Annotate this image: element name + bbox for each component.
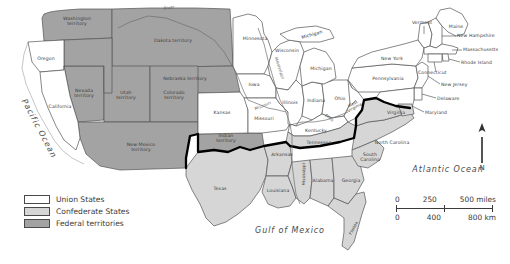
shape-new-mexico-territory: [78, 122, 198, 170]
leader-maryland: [412, 106, 424, 112]
scale-miles-500: 500 miles: [460, 195, 496, 204]
compass-stem: [481, 137, 482, 163]
shape-kansas: [198, 92, 248, 134]
scale-km-800: 800 km: [468, 213, 496, 222]
compass-north-label: N: [474, 164, 490, 172]
shape-washington-territory: [42, 9, 112, 41]
scale-tick-start: [396, 205, 397, 212]
leader-connecticut: [434, 62, 436, 72]
scale-miles-250: 250: [423, 195, 437, 204]
shape-michigan-upper: [280, 26, 334, 42]
shape-dakota-territory: [112, 8, 233, 68]
scale-line: [396, 205, 496, 212]
leader-new-jersey: [428, 76, 440, 84]
scale-miles-labels: 0 250 500 miles: [396, 195, 496, 204]
leader-delaware: [422, 94, 436, 98]
shape-oregon: [28, 40, 64, 72]
legend-label-federal: Federal territories: [56, 219, 124, 228]
shape-delaware: [414, 88, 422, 100]
shape-new-york: [352, 40, 424, 68]
scale-miles-0: 0: [395, 195, 400, 204]
compass-rose: N: [474, 118, 490, 172]
legend-swatch-confederate: [24, 207, 50, 216]
shape-michigan-lower: [300, 48, 336, 86]
legend-item-federal: Federal territories: [24, 217, 130, 229]
shape-pennsylvania: [348, 64, 418, 92]
legend-item-union: Union States: [24, 193, 130, 205]
shape-arkansas: [264, 142, 292, 176]
legend-label-confederate: Confederate States: [56, 207, 130, 216]
leader-rhode-island: [449, 59, 460, 62]
shape-indiana: [302, 82, 324, 120]
scale-km-labels: 0 400 800 km: [396, 213, 496, 222]
north-arrow-icon: [474, 123, 490, 133]
shape-iowa: [236, 74, 276, 98]
scale-km-400: 400: [427, 213, 441, 222]
scale-km-0: 0: [395, 213, 400, 222]
legend-item-confederate: Confederate States: [24, 205, 130, 217]
shape-minnesota: [233, 14, 272, 74]
shape-connecticut: [428, 54, 442, 62]
shape-colorado-territory: [150, 66, 198, 122]
legend-swatch-federal: [24, 219, 50, 228]
map-legend: Union States Confederate States Federal …: [24, 193, 130, 229]
shape-alabama: [310, 158, 334, 206]
map-scale-bar: 0 250 500 miles 0 400 800 km: [396, 195, 496, 222]
shape-rhode-island: [442, 54, 449, 61]
scale-tick-mid: [444, 205, 445, 212]
legend-swatch-union: [24, 195, 50, 204]
civil-war-map: Washington territory Oregon California N…: [0, 0, 510, 264]
scale-tick-end: [492, 205, 493, 212]
shape-texas: [186, 146, 268, 226]
legend-label-union: Union States: [56, 195, 104, 204]
